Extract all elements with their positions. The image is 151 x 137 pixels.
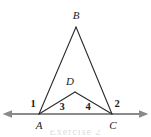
segment-dc bbox=[75, 92, 112, 114]
vertex-label-a: A bbox=[36, 120, 43, 131]
angle-label-1: 1 bbox=[30, 99, 35, 110]
angle-label-3: 3 bbox=[59, 102, 64, 113]
baseline-right-arrowhead bbox=[139, 110, 149, 117]
figure-canvas bbox=[0, 0, 151, 137]
segment-ab bbox=[39, 27, 76, 114]
vertex-label-b: B bbox=[73, 10, 80, 21]
angle-label-2: 2 bbox=[114, 99, 119, 110]
figure-caption-text: Exercise 2 bbox=[0, 130, 151, 137]
geometry-figure: B D A C 1 3 4 2 Exercise 2 bbox=[0, 0, 151, 137]
segment-ad bbox=[39, 92, 75, 114]
baseline-group bbox=[3, 110, 149, 117]
angle-label-4: 4 bbox=[85, 102, 90, 113]
vertex-label-c: C bbox=[109, 120, 116, 131]
triangle-abc bbox=[39, 27, 112, 114]
vertex-label-d: D bbox=[66, 76, 74, 87]
figure-caption: Exercise 2 bbox=[0, 130, 151, 137]
segment-bc bbox=[76, 27, 112, 114]
baseline-left-arrowhead bbox=[3, 110, 13, 117]
triangle-adc bbox=[39, 92, 112, 114]
